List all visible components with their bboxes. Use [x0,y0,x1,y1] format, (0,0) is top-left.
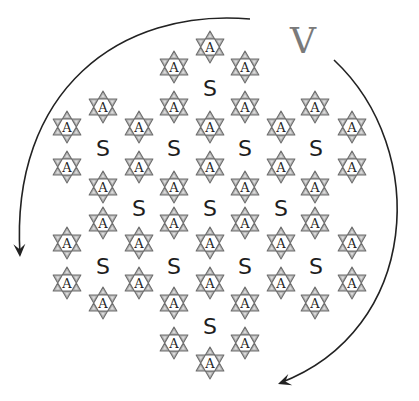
hexagram-unit: A [125,151,153,183]
hexagram-unit: A [267,151,295,183]
hexagram-unit: A [160,327,188,359]
hexagram-unit: A [196,31,224,63]
unit-label-a: A [309,180,320,195]
hexagram-unit: A [301,207,329,239]
hexagram-unit: A [301,287,329,319]
unit-label-a: A [168,336,179,351]
unit-label-a: A [239,100,250,115]
hexagram-unit: A [301,171,329,203]
unit-label-a: A [309,100,320,115]
unit-label-a: A [346,160,357,175]
hexagram-unit: A [267,227,295,259]
unit-label-a: A [204,236,215,251]
hexagram-unit: A [160,207,188,239]
hexagram-unit: A [196,151,224,183]
unit-label-a: A [168,180,179,195]
pore-label-s: S [238,136,252,161]
unit-label-a: A [239,296,250,311]
hexagram-unit: A [125,267,153,299]
hexagram-unit: A [160,51,188,83]
hexagram-unit: A [267,267,295,299]
unit-label-a: A [133,160,144,175]
unit-label-a: A [275,276,286,291]
pore-label-s: S [203,314,217,339]
pore-label-s: S [167,136,181,161]
hexagram-unit: A [125,227,153,259]
hexagram-unit: A [196,267,224,299]
rotation-label-v: V [289,20,317,61]
pore-label-s: S [203,196,217,221]
hexagram-unit: A [196,347,224,379]
unit-label-a: A [275,160,286,175]
unit-label-a: A [61,276,72,291]
unit-label-a: A [346,276,357,291]
unit-label-a: A [309,296,320,311]
unit-label-a: A [204,160,215,175]
hexagram-unit: A [160,171,188,203]
unit-label-a: A [204,120,215,135]
hexagram-unit: A [231,287,259,319]
unit-label-a: A [275,120,286,135]
unit-label-a: A [204,356,215,371]
pore-label-s: S [309,136,323,161]
hexagram-unit: A [338,267,366,299]
unit-label-a: A [168,100,179,115]
unit-label-a: A [204,276,215,291]
unit-label-a: A [168,216,179,231]
pore-label-s: S [96,136,110,161]
pore-label-s: S [238,254,252,279]
hexagram-unit: A [338,111,366,143]
unit-label-a: A [239,216,250,231]
hexagram-unit: A [53,227,81,259]
hexagram-unit: A [89,91,117,123]
unit-label-a: A [97,180,108,195]
arc-line [280,60,397,383]
unit-label-a: A [168,60,179,75]
pore-label-s: S [309,254,323,279]
hexagram-unit: A [89,287,117,319]
unit-label-a: A [97,216,108,231]
unit-label-a: A [97,296,108,311]
rotating-hexagram-lattice-diagram: AAAAAAAAAAAAAAAAAAAAAAAAAAAAAAAAAAAAAAAA… [0,0,419,401]
unit-label-a: A [346,236,357,251]
hexagram-unit: A [267,111,295,143]
hexagram-unit: A [231,327,259,359]
hexagram-unit: A [160,287,188,319]
hexagram-unit: A [53,111,81,143]
unit-label-a: A [239,336,250,351]
unit-label-a: A [309,216,320,231]
unit-label-a: A [346,120,357,135]
pore-label-s: S [203,76,217,101]
hexagram-unit: A [196,227,224,259]
hexagram-unit: A [125,111,153,143]
unit-label-a: A [97,100,108,115]
hexagram-unit: A [231,207,259,239]
hexagram-unit: A [53,267,81,299]
hexagram-unit: A [231,91,259,123]
pore-label-s: S [167,254,181,279]
right-rotation-arrow [278,60,397,385]
unit-label-a: A [204,40,215,55]
unit-label-a: A [133,236,144,251]
unit-label-a: A [275,236,286,251]
hexagram-unit: A [160,91,188,123]
hexagram-unit: A [89,207,117,239]
unit-label-a: A [61,160,72,175]
hexagram-unit: A [53,151,81,183]
pore-label-s: S [132,196,146,221]
unit-label-a: A [133,276,144,291]
pore-label-s: S [274,196,288,221]
unit-label-a: A [168,296,179,311]
pore-label-s: S [96,254,110,279]
hexagram-unit: A [196,111,224,143]
hexagram-unit: A [89,171,117,203]
unit-label-a: A [61,120,72,135]
hexagram-unit: A [231,171,259,203]
hexagram-unit: A [338,227,366,259]
unit-label-a: A [133,120,144,135]
unit-label-a: A [239,60,250,75]
hexagram-unit: A [231,51,259,83]
hexagram-unit: A [301,91,329,123]
hexagram-unit: A [338,151,366,183]
unit-label-a: A [239,180,250,195]
